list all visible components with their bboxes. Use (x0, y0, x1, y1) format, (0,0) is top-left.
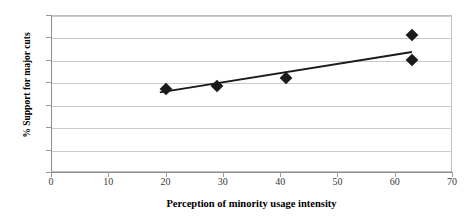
x-tick-label: 10 (93, 176, 123, 187)
x-tick-mark (337, 172, 338, 177)
y-tick-mark (46, 82, 51, 83)
x-tick-label: 70 (437, 176, 467, 187)
x-tick-label: 0 (36, 176, 66, 187)
x-tick-mark (108, 172, 109, 177)
scatter-chart: % Support for major cuts Perception of m… (0, 0, 468, 224)
gridline-horizontal (52, 16, 451, 17)
x-tick-mark (452, 172, 453, 177)
x-axis-line (51, 172, 453, 173)
y-tick-mark (46, 60, 51, 61)
y-tick-mark (46, 150, 51, 151)
x-tick-mark (51, 172, 52, 177)
gridline-horizontal (52, 61, 451, 62)
y-axis-line (51, 15, 52, 173)
x-tick-mark (223, 172, 224, 177)
x-tick-label: 40 (265, 176, 295, 187)
y-axis-title: % Support for major cuts (22, 0, 32, 170)
x-tick-label: 50 (322, 176, 352, 187)
x-tick-mark (395, 172, 396, 177)
x-tick-label: 60 (380, 176, 410, 187)
gridline-horizontal (52, 83, 451, 84)
x-axis-title: Perception of minority usage intensity (51, 198, 452, 209)
gridline-horizontal (52, 128, 451, 129)
x-tick-mark (166, 172, 167, 177)
y-tick-mark (46, 105, 51, 106)
x-tick-label: 20 (151, 176, 181, 187)
y-tick-mark (46, 127, 51, 128)
gridline-horizontal (52, 106, 451, 107)
x-tick-mark (280, 172, 281, 177)
gridline-horizontal (52, 38, 451, 39)
x-tick-label: 30 (208, 176, 238, 187)
y-tick-mark (46, 15, 51, 16)
y-tick-mark (46, 37, 51, 38)
gridline-horizontal (52, 151, 451, 152)
plot-area (51, 15, 452, 172)
